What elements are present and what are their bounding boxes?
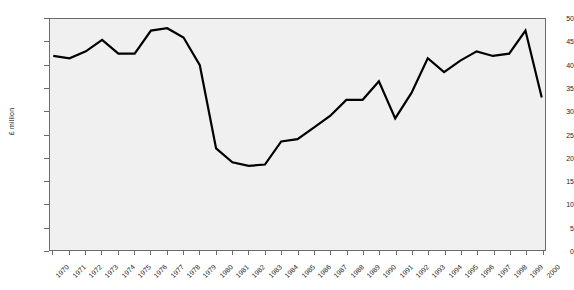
x-tick-label-text: 1991 xyxy=(398,263,414,279)
y-tick-label: 15 xyxy=(548,178,574,185)
x-tick-mark xyxy=(298,251,299,255)
x-tick-label-text: 1974 xyxy=(120,263,136,279)
x-tick-mark xyxy=(150,251,151,255)
x-tick-label-text: 1994 xyxy=(447,263,463,279)
x-tick-label-text: 1982 xyxy=(251,263,267,279)
x-tick-mark xyxy=(183,251,184,255)
x-tick-mark xyxy=(477,251,478,255)
y-axis: £ million xyxy=(0,0,49,290)
chart-screenshot: £ million 05101520253035404550 197019711… xyxy=(0,0,574,290)
x-tick-mark xyxy=(52,251,53,255)
x-tick-mark xyxy=(347,251,348,255)
x-tick-mark xyxy=(216,251,217,255)
x-tick-mark xyxy=(510,251,511,255)
y-tick-label: 5 xyxy=(548,224,574,231)
x-tick-mark xyxy=(134,251,135,255)
y-axis-title: £ million xyxy=(8,87,15,157)
x-tick-mark xyxy=(69,251,70,255)
y-tick-label: 25 xyxy=(548,131,574,138)
x-tick-label-text: 1976 xyxy=(153,263,169,279)
line-series xyxy=(50,19,545,250)
y-tick-label: 40 xyxy=(548,61,574,68)
x-tick-label-text: 1993 xyxy=(430,263,446,279)
x-tick-label-text: 1979 xyxy=(202,263,218,279)
x-tick-label-text: 1984 xyxy=(283,263,299,279)
x-tick-mark xyxy=(281,251,282,255)
x-tick-label-text: 1997 xyxy=(496,263,512,279)
x-tick-mark xyxy=(526,251,527,255)
x-tick-mark xyxy=(330,251,331,255)
x-tick-label-text: 1970 xyxy=(54,263,70,279)
x-tick-mark xyxy=(265,251,266,255)
x-tick-label-text: 1996 xyxy=(480,263,496,279)
x-tick-mark xyxy=(199,251,200,255)
x-tick-mark xyxy=(412,251,413,255)
series-polyline xyxy=(53,28,541,166)
x-tick-mark xyxy=(85,251,86,255)
x-tick-mark xyxy=(101,251,102,255)
x-tick-mark xyxy=(461,251,462,255)
x-tick-mark xyxy=(379,251,380,255)
x-tick-mark xyxy=(232,251,233,255)
x-tick-mark xyxy=(543,251,544,255)
x-tick-label-text: 1977 xyxy=(169,263,185,279)
x-tick-label-text: 1990 xyxy=(381,263,397,279)
x-tick-mark xyxy=(428,251,429,255)
y-tick-label: 20 xyxy=(548,154,574,161)
y-tick-label: 45 xyxy=(548,38,574,45)
y-tick-label: 10 xyxy=(548,201,574,208)
x-tick-mark xyxy=(396,251,397,255)
y-tick-label: 30 xyxy=(548,108,574,115)
x-tick-label-text: 1973 xyxy=(104,263,120,279)
x-tick-label-text: 1987 xyxy=(332,263,348,279)
x-tick-label-text: 1971 xyxy=(71,263,87,279)
y-tick-label: 35 xyxy=(548,84,574,91)
x-tick-mark xyxy=(363,251,364,255)
y-tick-label: 0 xyxy=(548,248,574,255)
plot-inner xyxy=(50,19,545,250)
x-tick-mark xyxy=(314,251,315,255)
x-tick-label-text: 2000 xyxy=(545,263,561,279)
x-tick-label: 2000 xyxy=(550,258,566,274)
plot-area xyxy=(49,18,546,251)
x-tick-label-text: 1980 xyxy=(218,263,234,279)
x-tick-label-text: 1985 xyxy=(300,263,316,279)
x-tick-mark xyxy=(118,251,119,255)
y-tick-label: 50 xyxy=(548,15,574,22)
x-tick-mark xyxy=(494,251,495,255)
x-tick-label-text: 1999 xyxy=(529,263,545,279)
x-tick-mark xyxy=(445,251,446,255)
x-tick-mark xyxy=(167,251,168,255)
x-tick-label-text: 1988 xyxy=(349,263,365,279)
y-tick-mark xyxy=(44,251,49,252)
x-tick-mark xyxy=(248,251,249,255)
x-tick-label-text: 1983 xyxy=(267,263,283,279)
